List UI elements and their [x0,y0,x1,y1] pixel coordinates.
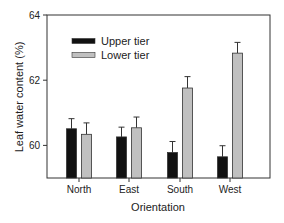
legend-swatch [72,53,95,58]
x-tick-label: East [119,184,139,195]
y-axis: 606264 [29,10,47,151]
bar-upper-tier-west [218,157,228,178]
bar-upper-tier-south [168,153,178,178]
legend: Upper tierLower tier [72,35,150,61]
x-tick-label: West [219,184,242,195]
bar-lower-tier-north [82,134,92,178]
x-axis-label: Orientation [131,201,185,213]
bar-lower-tier-west [233,53,243,178]
y-tick-label: 64 [29,10,41,21]
bar-upper-tier-east [117,137,127,178]
x-tick-label: North [67,184,91,195]
y-tick-label: 62 [29,75,41,86]
legend-label: Lower tier [101,49,150,61]
bar-lower-tier-east [132,128,142,178]
y-tick-label: 60 [29,140,41,151]
bar-lower-tier-south [183,88,193,178]
legend-label: Upper tier [101,35,150,47]
legend-swatch [72,39,95,44]
y-axis-label: Leaf water content (%) [13,42,25,153]
bars [67,42,243,178]
x-axis: NorthEastSouthWest [67,178,242,195]
x-tick-label: South [167,184,193,195]
bar-chart: 606264 NorthEastSouthWest Upper tierLowe… [0,0,284,223]
bar-upper-tier-north [67,129,77,178]
